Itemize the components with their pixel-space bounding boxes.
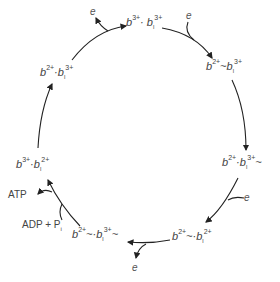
- state-bottom-left: b2+~·bl3+~: [72, 226, 118, 242]
- electron-out-top: [96, 18, 108, 31]
- atp-label: ATP: [8, 190, 27, 200]
- adp-pi-label: ADP + Pi: [22, 220, 62, 232]
- state-right: b2+·bl3+~: [222, 154, 262, 170]
- electron-in-lowerright: [228, 197, 244, 200]
- arrow-lowerright-to-bottomleft: [128, 240, 170, 243]
- state-upper-left: b2+·bl3+: [40, 64, 73, 80]
- atp-out: [38, 190, 52, 194]
- state-lower-right: b2+~·bl2+: [172, 228, 212, 244]
- adp-in: [60, 204, 62, 220]
- electron-label-bottom: e: [132, 262, 138, 273]
- arrow-left-to-upperleft: [38, 84, 52, 148]
- state-left: b3+·bl2+: [16, 156, 49, 172]
- state-top: b3+· bl3+: [126, 14, 162, 30]
- state-upper-right: b2+~bl3+: [206, 58, 242, 74]
- electron-label-lowerright: e: [244, 192, 250, 203]
- electron-out-bottom: [136, 244, 146, 258]
- cycle-diagram: [0, 0, 280, 282]
- arrow-top-to-upperright: [162, 28, 212, 58]
- electron-in-topright: [187, 22, 194, 40]
- electron-label-topright: e: [186, 10, 192, 21]
- arrow-upperright-to-right: [232, 80, 246, 150]
- arrow-upperleft-to-top: [72, 26, 126, 60]
- arrow-right-to-lowerright: [206, 178, 238, 222]
- electron-label-top: e: [90, 6, 96, 17]
